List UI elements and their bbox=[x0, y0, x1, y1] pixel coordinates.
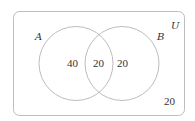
set-b-label: B bbox=[156, 31, 164, 42]
set-a-label: A bbox=[34, 31, 42, 42]
region-b-only-value: 20 bbox=[117, 57, 129, 69]
region-a-only-value: 40 bbox=[67, 57, 79, 69]
region-a-and-b-value: 20 bbox=[93, 57, 105, 69]
universe-label: U bbox=[171, 20, 180, 31]
region-neither-value: 20 bbox=[164, 95, 176, 107]
venn-diagram: U A B 40 20 20 20 bbox=[0, 0, 195, 121]
